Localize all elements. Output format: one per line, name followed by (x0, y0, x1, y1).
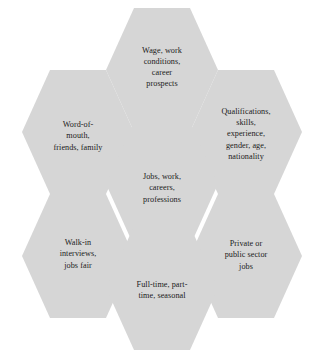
hexagon-label: Walk-in interviews, jobs fair (35, 237, 121, 271)
hexagon-diagram: Word-of- mouth, friends, family Wage, wo… (0, 0, 324, 358)
hexagon-label: Jobs, work, careers, professions (119, 171, 205, 205)
hexagon-label: Word-of- mouth, friends, family (35, 119, 121, 153)
hexagon-label: Full-time, part- time, seasonal (119, 279, 205, 301)
hexagon-label: Qualifications, skills, experience, gend… (203, 106, 289, 162)
hexagon-label: Private or public sector jobs (203, 238, 289, 272)
hexagon-label: Wage, work conditions, career prospects (119, 45, 205, 90)
